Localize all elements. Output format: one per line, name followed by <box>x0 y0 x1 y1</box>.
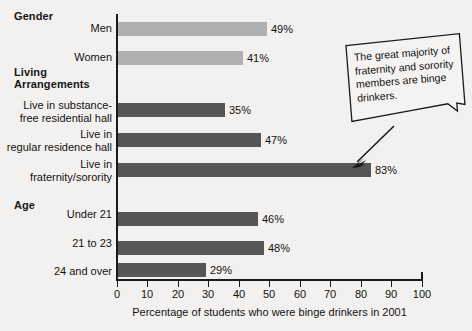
x-tick-label-50: 50 <box>263 288 275 300</box>
bar-value-regular-residence-hall: 47% <box>265 133 287 147</box>
x-tick-label-60: 60 <box>294 288 306 300</box>
group-heading-age: Age <box>14 199 35 211</box>
x-tick-60 <box>300 281 301 287</box>
group-heading-living-arrangements: Living Arrangements <box>14 66 90 90</box>
category-label-under-21: Under 21 <box>67 208 112 221</box>
bar-value-21-to-23: 48% <box>268 241 290 255</box>
x-tick-label-10: 10 <box>141 288 153 300</box>
bar-under-21 <box>118 212 258 226</box>
category-label-fraternity-sorority: Live in fraternity/sorority <box>30 158 112 183</box>
category-label-women: Women <box>74 51 112 64</box>
bar-men <box>118 22 267 36</box>
x-tick-30 <box>208 281 209 287</box>
x-tick-label-20: 20 <box>172 288 184 300</box>
callout-note-text: The great majority of fraternity and sor… <box>344 33 469 132</box>
bar-substance-free-hall <box>118 103 225 117</box>
x-tick-70 <box>330 281 331 287</box>
callout-note: The great majority of fraternity and sor… <box>344 33 469 132</box>
bar-regular-residence-hall <box>118 133 261 147</box>
category-label-substance-free-hall: Live in substance- free residential hall <box>20 99 112 124</box>
bar-value-under-21: 46% <box>262 212 284 226</box>
x-tick-label-0: 0 <box>114 288 120 300</box>
x-tick-label-80: 80 <box>355 288 367 300</box>
x-tick-label-40: 40 <box>233 288 245 300</box>
bar-value-women: 41% <box>247 51 269 65</box>
x-tick-50 <box>269 281 270 287</box>
bar-24-and-over <box>118 263 206 277</box>
plot-right-edge <box>421 272 423 281</box>
x-tick-label-70: 70 <box>324 288 336 300</box>
x-tick-label-30: 30 <box>202 288 214 300</box>
x-tick-label-90: 90 <box>385 288 397 300</box>
x-tick-40 <box>239 281 240 287</box>
x-tick-90 <box>391 281 392 287</box>
category-label-regular-residence-hall: Live in regular residence hall <box>7 128 112 153</box>
bar-value-substance-free-hall: 35% <box>229 103 251 117</box>
binge-drinking-bar-chart: Gender Living Arrangements Age Men Women… <box>0 0 472 331</box>
x-tick-0 <box>117 281 118 287</box>
category-label-men: Men <box>91 22 112 35</box>
bar-women <box>118 51 243 65</box>
callout-arrow-icon <box>330 120 410 175</box>
x-tick-20 <box>178 281 179 287</box>
bar-21-to-23 <box>118 241 264 255</box>
x-tick-80 <box>361 281 362 287</box>
x-axis-title: Percentage of students who were binge dr… <box>116 306 423 318</box>
category-label-24-and-over: 24 and over <box>54 265 112 278</box>
x-tick-label-100: 100 <box>413 288 431 300</box>
category-label-21-to-23: 21 to 23 <box>72 237 112 250</box>
bar-value-24-and-over: 29% <box>210 263 232 277</box>
x-tick-100 <box>422 281 423 287</box>
bar-value-men: 49% <box>271 22 293 36</box>
x-tick-10 <box>147 281 148 287</box>
group-heading-gender: Gender <box>14 10 53 22</box>
